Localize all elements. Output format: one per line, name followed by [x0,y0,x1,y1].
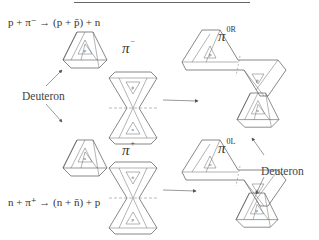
arrow-deuteron-to-bottom [46,104,62,122]
svg-text:n: n [209,162,212,167]
arrow-pi-plus-to-pi0L [163,190,196,191]
deuteron-bottom-triangle: n [63,140,107,176]
pi-plus-bowtie: n̄ p [109,162,157,234]
pi-minus-bowtie: p̄ n [109,72,157,144]
arrows [46,70,264,194]
svg-text:p: p [256,208,259,213]
triangle-label-p: p [84,48,87,53]
pi-0R-pair: p p̄ [182,30,286,96]
svg-text:p: p [209,52,212,57]
deuteron-pion-diagram: p + π⁻ → (p + p̄) + n n + π⁺ → (n + n̄) … [0,0,319,240]
svg-text:n: n [132,127,135,132]
deuteron-top-triangle: p [63,32,107,68]
pi-0L-pair: n n̄ [182,140,286,206]
arrow-deuteron-to-top [46,70,62,86]
product-n-triangle: n [237,93,279,127]
arrow-pi-minus-to-pi0R [163,100,198,101]
product-p-triangle: p [236,193,278,227]
svg-text:p̄: p̄ [256,78,259,83]
svg-text:n̄: n̄ [132,175,135,180]
diagram-graphics: p n p̄ n n̄ p p p̄ n n̄ [0,0,319,240]
triangle-label-n: n [84,156,87,161]
svg-text:p̄: p̄ [132,85,135,90]
svg-text:p: p [132,217,135,222]
arrow-deuteron-to-n [252,138,264,155]
arrow-deuteron-to-p [256,177,264,194]
svg-text:n: n [257,108,260,113]
